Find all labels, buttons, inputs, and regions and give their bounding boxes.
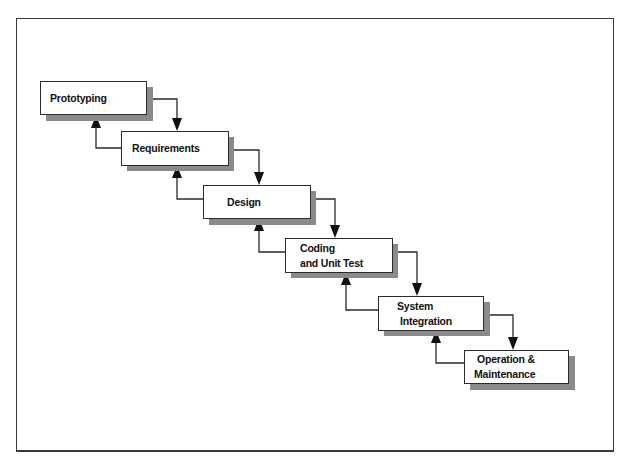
stage-box: Coding and Unit Test bbox=[285, 238, 393, 273]
arrow-requirements-to-design bbox=[234, 150, 259, 173]
stage-label-line2: Maintenance bbox=[474, 367, 568, 382]
arrow-operation-to-integration bbox=[436, 342, 464, 363]
stage-box: System Integration bbox=[378, 296, 484, 331]
stage-label: Design bbox=[227, 195, 310, 210]
stage-label: Requirements bbox=[132, 141, 228, 156]
stage-box: Design bbox=[203, 185, 311, 219]
arrow-integration-to-operation bbox=[489, 315, 513, 338]
stage-box: Prototyping bbox=[40, 81, 147, 115]
stage-box: Requirements bbox=[121, 131, 229, 166]
stage-label-line1: Coding bbox=[300, 241, 392, 256]
stage-label-line2: and Unit Test bbox=[300, 256, 392, 271]
arrow-requirements-to-prototyping bbox=[96, 127, 121, 148]
stage-label-line1: Operation & bbox=[474, 352, 568, 367]
stage-box: Operation & Maintenance bbox=[464, 350, 569, 384]
arrow-coding-to-integration bbox=[398, 252, 417, 284]
arrow-coding-to-design bbox=[259, 230, 285, 252]
arrow-integration-to-coding bbox=[346, 284, 378, 310]
connector-lines bbox=[0, 0, 629, 466]
stage-label-line1: System bbox=[397, 299, 483, 314]
arrow-design-to-requirements bbox=[177, 177, 203, 199]
arrow-prototyping-to-requirements bbox=[152, 99, 177, 119]
arrow-design-to-coding bbox=[316, 199, 335, 226]
stage-label: Prototyping bbox=[50, 91, 146, 106]
stage-label-line2: Integration bbox=[397, 314, 483, 329]
